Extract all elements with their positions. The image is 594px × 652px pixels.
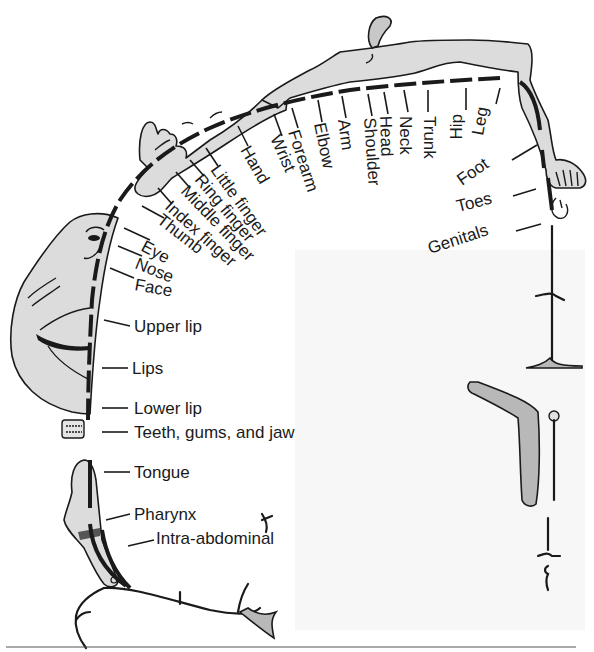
homunculus-diagram: Genitals Toes Foot Leg Hip Trunk Neck He…: [0, 0, 594, 652]
label-trunk: Trunk: [420, 116, 439, 159]
label-neck: Neck: [396, 116, 415, 155]
label-pharynx: Pharynx: [134, 505, 197, 524]
label-leg: Leg: [468, 105, 492, 136]
head-drawing: [369, 16, 392, 48]
label-lower-lip: Lower lip: [134, 399, 202, 418]
label-upper-lip: Upper lip: [134, 317, 202, 336]
eye-drawing: [88, 235, 100, 241]
label-intra-abdominal: Intra-abdominal: [156, 529, 274, 548]
label-toes: Toes: [454, 189, 493, 216]
teeth-drawing: [62, 420, 84, 438]
label-tongue: Tongue: [134, 463, 190, 482]
label-hip: Hip: [447, 114, 466, 140]
label-lips: Lips: [132, 359, 163, 378]
label-teeth-gums-jaw: Teeth, gums, and jaw: [134, 423, 295, 442]
label-shoulder: Shoulder: [360, 117, 384, 187]
label-arm: Arm: [334, 118, 357, 152]
genitals-drawing: [552, 198, 568, 218]
label-hand: Hand: [237, 143, 274, 188]
label-foot: Foot: [453, 154, 492, 189]
background-panel: [295, 250, 585, 630]
